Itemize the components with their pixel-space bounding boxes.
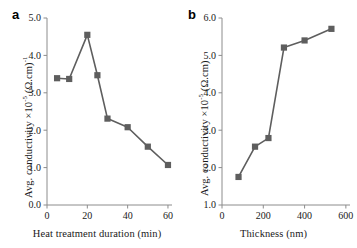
- y-tick-label: 3.0: [204, 125, 217, 136]
- x-tick-label: 60: [163, 210, 173, 221]
- x-tick-label: 0: [45, 210, 50, 221]
- chart-panel-b: b Avg. conductivity ×10-5 (Ω.cm) Thickne…: [178, 0, 357, 248]
- y-tick-label: 3.0: [29, 87, 42, 98]
- y-tick-label: 4.0: [204, 87, 217, 98]
- plot-area-b: 1.02.03.04.05.06.00200400600: [178, 0, 357, 248]
- plot-area-a: 0.01.02.03.04.05.00204060: [0, 0, 178, 248]
- x-tick-label: 400: [297, 210, 312, 221]
- data-point-marker: [66, 76, 72, 82]
- y-tick-label: 0.0: [29, 199, 42, 210]
- x-tick-label: 600: [338, 210, 353, 221]
- data-point-marker: [84, 32, 90, 38]
- data-point-marker: [235, 174, 241, 180]
- data-series-line: [57, 35, 168, 165]
- x-tick-label: 200: [256, 210, 271, 221]
- y-tick-label: 1.0: [29, 162, 42, 173]
- data-point-marker: [104, 116, 110, 122]
- data-point-marker: [94, 72, 100, 78]
- x-tick-label: 40: [123, 210, 133, 221]
- y-tick-label: 4.0: [29, 50, 42, 61]
- data-point-marker: [328, 26, 334, 32]
- y-tick-label: 5.0: [29, 12, 42, 23]
- data-point-marker: [165, 162, 171, 168]
- data-point-marker: [301, 37, 307, 43]
- chart-panel-a: a Avg. conductivity ×10-5 (Ω.cm)-1 Heat …: [0, 0, 178, 248]
- y-tick-label: 2.0: [29, 125, 42, 136]
- y-tick-label: 6.0: [204, 12, 217, 23]
- data-series-line: [239, 29, 332, 177]
- data-point-marker: [265, 135, 271, 141]
- x-tick-label: 0: [220, 210, 225, 221]
- y-tick-label: 2.0: [204, 162, 217, 173]
- figure-container: a Avg. conductivity ×10-5 (Ω.cm)-1 Heat …: [0, 0, 357, 248]
- y-tick-label: 5.0: [204, 50, 217, 61]
- data-point-marker: [252, 144, 258, 150]
- y-tick-label: 1.0: [204, 199, 217, 210]
- data-point-marker: [125, 124, 131, 130]
- data-point-marker: [54, 75, 60, 81]
- data-point-marker: [281, 44, 287, 50]
- x-tick-label: 20: [82, 210, 92, 221]
- data-point-marker: [145, 144, 151, 150]
